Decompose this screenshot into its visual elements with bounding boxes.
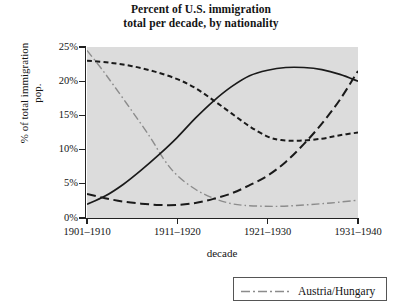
series-line-dash-dot (87, 50, 358, 206)
y-axis-tick-label: 15% (38, 110, 78, 121)
legend-item-austria-hungary: Austria/Hungary (234, 283, 387, 300)
x-axis-tick-label: 1921–1930 (225, 226, 311, 237)
y-axis-tick-label: 10% (38, 144, 78, 155)
plot-area (87, 47, 358, 218)
y-axis-title-line-2: pop. (31, 6, 44, 181)
x-axis-tick-label: 1931–1940 (315, 226, 401, 237)
series-line-solid (87, 67, 358, 204)
series-canvas (87, 47, 358, 218)
y-axis-tick (79, 217, 86, 218)
y-axis-title: % of total immigration pop. (18, 6, 44, 181)
x-axis-line (85, 218, 359, 219)
y-axis-tick-label: 25% (38, 42, 78, 53)
x-axis-tick-label: 1901–1910 (44, 226, 130, 237)
chart-title-line-1: Percent of U.S. immigration (0, 3, 402, 17)
legend-label-austria-hungary: Austria/Hungary (298, 285, 375, 298)
x-axis-tick-label: 1911–1920 (134, 226, 220, 237)
x-axis-title: decade (85, 247, 359, 259)
x-axis-tick (177, 218, 178, 224)
y-axis-tick-label: 20% (38, 76, 78, 87)
legend-line-swatch-dash-dot (240, 285, 292, 298)
series-line-short-dash (87, 61, 358, 141)
x-axis-tick (86, 218, 87, 224)
y-axis-tick (79, 149, 86, 150)
y-axis-line (85, 46, 86, 219)
y-axis-tick-label: 5% (38, 178, 78, 189)
y-axis-tick (79, 183, 86, 184)
y-axis-title-line-1: % of total immigration (18, 6, 31, 181)
series-line-long-dash (87, 71, 358, 205)
x-axis-tick (357, 218, 358, 224)
y-axis-tick (79, 46, 86, 47)
chart-title-line-2: total per decade, by nationality (0, 17, 402, 31)
y-axis-tick (79, 115, 86, 116)
y-axis-tick (79, 81, 86, 82)
immigration-chart-figure: Percent of U.S. immigration total per de… (0, 0, 402, 301)
x-axis-tick (267, 218, 268, 224)
chart-legend: Austria/Hungary (233, 277, 387, 301)
chart-title: Percent of U.S. immigration total per de… (0, 3, 402, 30)
y-axis-tick-label: 0% (38, 213, 78, 224)
